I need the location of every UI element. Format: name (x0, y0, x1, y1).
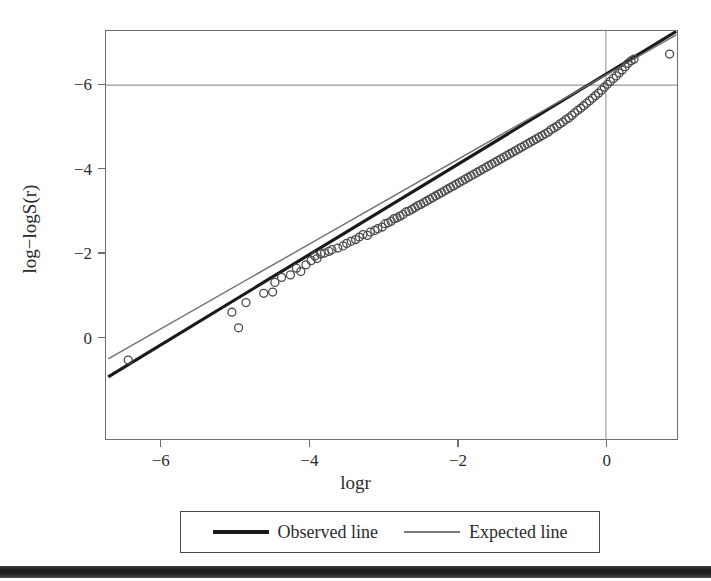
scan-artifact-bar (0, 566, 711, 578)
chart-legend: Observed lineExpected line (180, 511, 600, 553)
legend-entry: Expected line (404, 522, 567, 543)
x-tick-label: −6 (152, 452, 170, 469)
plot-area (105, 30, 678, 440)
x-axis-title: logr (0, 472, 711, 494)
plot-canvas (106, 31, 677, 439)
data-point (278, 273, 286, 281)
data-point (286, 271, 294, 279)
legend-label: Observed line (278, 522, 378, 543)
data-point (242, 299, 250, 307)
data-point (260, 289, 268, 297)
x-tick-mark (309, 440, 310, 447)
legend-line-swatch (213, 530, 269, 534)
y-tick-label: −4 (40, 160, 92, 177)
y-tick-label: −6 (40, 76, 92, 93)
x-tick-label: −4 (300, 452, 318, 469)
x-tick-mark (160, 440, 161, 447)
series-line-expected-line (108, 35, 676, 359)
x-tick-mark (457, 440, 458, 447)
y-tick-label: 0 (40, 329, 92, 346)
x-tick-label: −2 (449, 452, 467, 469)
legend-line-swatch (404, 531, 460, 532)
y-tick-label: −2 (40, 245, 92, 262)
legend-entry: Observed line (213, 522, 378, 543)
y-axis-title: log−logS(r) (19, 139, 41, 319)
legend-label: Expected line (469, 522, 567, 543)
y-tick-mark (98, 252, 105, 253)
data-point (269, 288, 277, 296)
y-tick-mark (98, 337, 105, 338)
data-point (666, 50, 674, 58)
data-point (302, 261, 310, 269)
data-point (228, 308, 236, 316)
y-tick-mark (98, 168, 105, 169)
x-tick-label: 0 (602, 452, 611, 469)
x-tick-mark (606, 440, 607, 447)
data-point (235, 324, 243, 332)
chart-figure: log−logS(r) 0−2−4−6 −6−4−20 logr Observe… (0, 0, 711, 581)
y-tick-mark (98, 84, 105, 85)
